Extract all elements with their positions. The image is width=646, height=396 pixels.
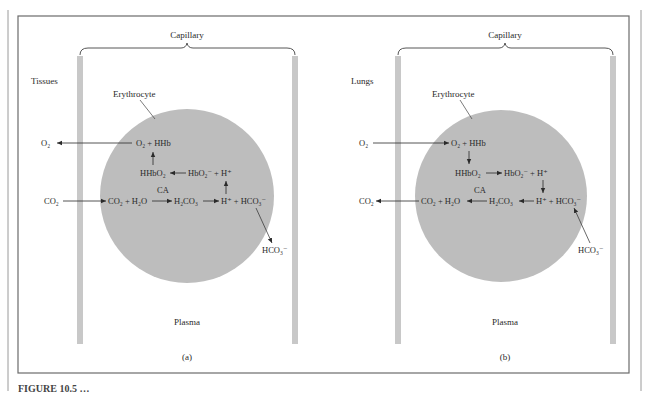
outside-hco3: HCO₃⁻: [578, 245, 603, 255]
enzyme-label: CA: [157, 185, 170, 195]
figure-caption-cropped: FIGURE 10.5 …: [18, 383, 628, 396]
row3-c: H⁺ + HCO₃⁻: [221, 196, 266, 206]
outside-co2: CO₂: [44, 196, 59, 206]
capillary-wall-left: [77, 56, 83, 344]
plasma-label: Plasma: [492, 317, 518, 327]
panel-label-b: (b): [500, 352, 511, 362]
row2-right: HbO₂⁻ + H⁺: [504, 168, 548, 178]
outside-hco3: HCO₃⁻: [262, 245, 287, 255]
plasma-label: Plasma: [174, 317, 200, 327]
row2-left: HHbO₂: [140, 168, 166, 178]
row1-species: O₂ + HHb: [136, 138, 171, 148]
erythrocyte-label: Erythrocyte: [113, 89, 155, 99]
capillary-wall-right: [610, 56, 616, 344]
row2-left: HHbO₂: [455, 168, 481, 178]
region-label: Tissues: [31, 76, 58, 86]
row3-b: H₂CO₃: [174, 196, 198, 206]
capillary-brace: [398, 43, 613, 55]
region-label: Lungs: [351, 76, 374, 86]
panel-b: Capillary Lungs Erythrocyte O₂ O₂ + HHb …: [351, 30, 616, 362]
erythrocyte-leader: [140, 100, 155, 119]
outside-o2: O₂: [41, 138, 50, 148]
row3-b: H₂CO₃: [489, 196, 513, 206]
capillary-wall-left: [395, 56, 401, 344]
erythrocyte-label: Erythrocyte: [432, 89, 474, 99]
row3-a: CO₂ + H₂O: [108, 196, 147, 206]
outside-co2: CO₂: [359, 196, 374, 206]
outside-o2: O₂: [359, 138, 368, 148]
panel-a: Capillary Tissues Erythrocyte O₂ + HHb O…: [31, 30, 298, 362]
panel-label-a: (a): [182, 352, 192, 362]
capillary-label: Capillary: [170, 30, 204, 40]
capillary-label: Capillary: [488, 30, 522, 40]
capillary-wall-right: [292, 56, 298, 344]
erythrocyte-leader: [460, 100, 472, 119]
row1-species: O₂ + HHb: [451, 138, 486, 148]
capillary-brace: [80, 43, 295, 55]
row3-a: CO₂ + H₂O: [421, 196, 460, 206]
row2-right: HbO₂⁻ + H⁺: [188, 168, 232, 178]
row3-c: H⁺ + HCO₃⁻: [536, 196, 581, 206]
enzyme-label: CA: [474, 185, 487, 195]
